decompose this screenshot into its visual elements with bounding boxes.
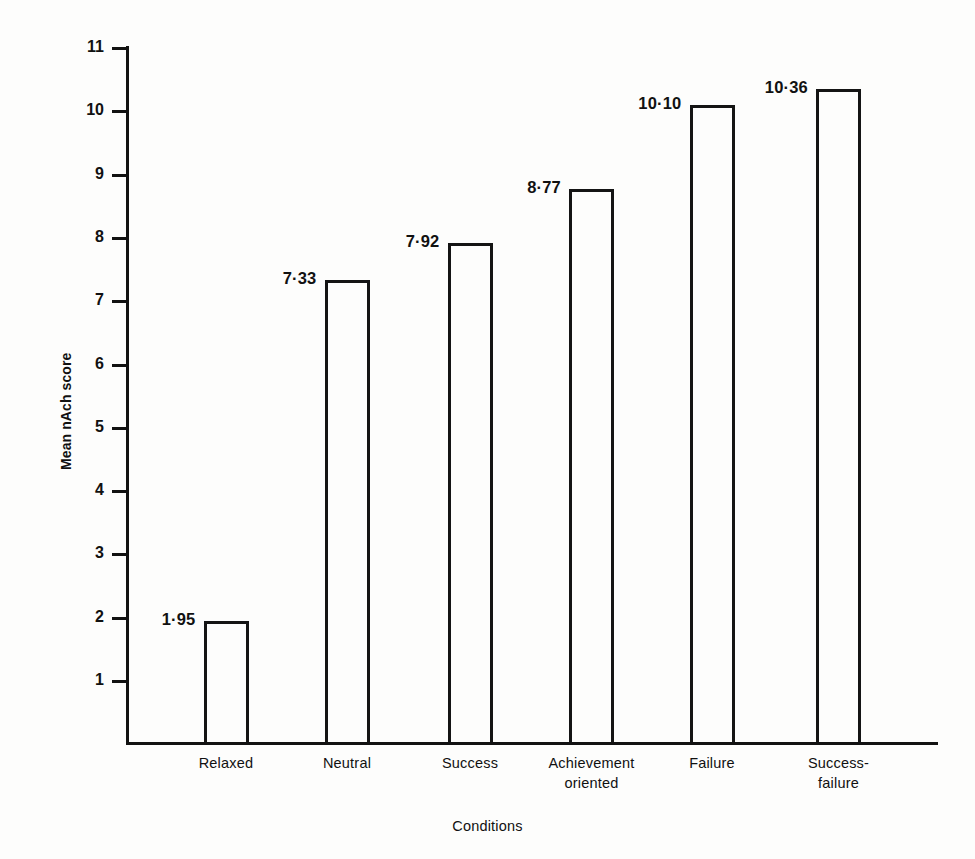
y-tick-mark xyxy=(112,300,127,303)
y-tick-mark xyxy=(112,237,127,240)
y-tick-label: 4 xyxy=(60,481,104,499)
y-tick-mark xyxy=(112,47,127,50)
bar-value-label: 7·92 xyxy=(356,232,440,251)
y-tick-label: 7 xyxy=(60,291,104,309)
y-tick-label: 10 xyxy=(60,101,104,119)
x-axis-line xyxy=(126,742,938,745)
bar xyxy=(569,189,614,742)
x-category-label-line: Success- xyxy=(764,754,914,774)
x-category-label-line: oriented xyxy=(517,774,667,794)
y-tick-mark xyxy=(112,174,127,177)
y-tick-label: 11 xyxy=(60,38,104,56)
chart-figure: Mean nAch score 1234567891011 1·957·337·… xyxy=(0,0,975,859)
y-tick-mark xyxy=(112,490,127,493)
bar-value-label: 10·36 xyxy=(724,78,808,97)
bar xyxy=(690,105,735,742)
bar xyxy=(816,89,861,742)
y-tick-mark xyxy=(112,680,127,683)
y-tick-mark xyxy=(112,553,127,556)
bar-value-label: 7·33 xyxy=(233,269,317,288)
y-tick-label: 5 xyxy=(60,418,104,436)
y-tick-label: 3 xyxy=(60,544,104,562)
y-tick-label: 2 xyxy=(60,608,104,626)
bar-value-label: 8·77 xyxy=(477,178,561,197)
x-category-label-line: failure xyxy=(764,774,914,794)
bar xyxy=(448,243,493,742)
y-tick-mark xyxy=(112,364,127,367)
y-tick-mark xyxy=(112,427,127,430)
x-category-label: Success-failure xyxy=(764,754,914,793)
y-tick-mark xyxy=(112,110,127,113)
y-tick-label: 8 xyxy=(60,228,104,246)
bar xyxy=(325,280,370,742)
bar xyxy=(204,621,249,742)
bar-value-label: 1·95 xyxy=(112,610,196,629)
y-axis-line xyxy=(126,46,129,745)
y-tick-label: 6 xyxy=(60,355,104,373)
bar-value-label: 10·10 xyxy=(598,94,682,113)
y-tick-label: 1 xyxy=(60,671,104,689)
y-tick-label: 9 xyxy=(60,165,104,183)
x-axis-title: Conditions xyxy=(0,818,975,834)
